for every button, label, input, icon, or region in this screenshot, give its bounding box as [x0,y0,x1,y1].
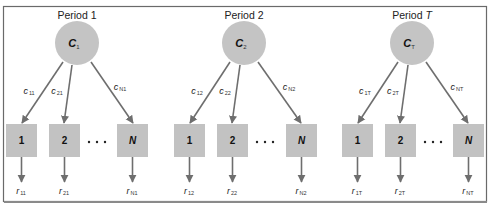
period-T-output-1-label: r1T [352,186,363,196]
period-T-ellipsis [424,141,442,143]
period-T-edge-1-label: c1T [359,86,372,96]
period-T-leaf-1-label: 1 [355,135,361,146]
period-T-title: Period T [392,9,433,21]
period-1-leaf-1-label: 1 [19,135,25,146]
period-1-leaf-2-label: 2 [62,135,68,146]
period-2-output-N-label: rN2 [295,186,306,196]
period-2-edge-N [258,62,301,123]
period-T-leaf-2-label: 2 [398,135,404,146]
period-2-edge-2 [232,65,240,123]
period-2-leaf-2-label: 2 [230,135,236,146]
multi-period-tree-diagram: Period 1 C1 c11 c21 cN1 1 2 N r11 r21 rN… [0,0,489,208]
period-2-output-2-label: r22 [227,186,237,196]
period-2-output-1-label: r12 [184,186,194,196]
period-1-title: Period 1 [57,9,96,21]
period-1-edge-2 [64,65,72,123]
period-2-edge-N-label: cN2 [283,82,296,92]
period-2-edge-1-label: c12 [191,86,203,96]
period-1-edge-2-label: c21 [51,86,63,96]
period-1-edge-N [91,62,133,123]
period-1-edge-N-label: cN1 [114,82,127,92]
period-2-title: Period 2 [224,9,263,21]
period-T-edge-N [426,62,468,123]
period-1-output-2-label: r21 [59,186,69,196]
period-T-group: Period T CT c1T c2T cNT 1 2 N r1T r2T rN… [342,9,484,196]
period-1-edge-1-label: c11 [23,86,34,96]
period-1-output-1-label: r11 [16,186,26,196]
period-2-leaf-1-label: 1 [187,135,193,146]
period-T-edge-N-label: cNT [451,82,464,92]
period-1-output-N-label: rN1 [126,186,137,196]
period-T-output-2-label: r2T [395,186,406,196]
period-1-group: Period 1 C1 c11 c21 cN1 1 2 N r11 r21 rN… [6,9,148,196]
period-2-group: Period 2 C2 c12 c22 cN2 1 2 N r12 r22 rN… [174,9,317,196]
period-1-root-node [55,21,99,65]
period-T-leaf-N-label: N [465,135,473,146]
period-1-ellipsis [88,141,106,143]
period-2-leaf-N-label: N [298,135,306,146]
period-1-leaf-N-label: N [129,135,137,146]
period-T-output-N-label: rNT [462,186,474,196]
period-T-root-node [390,21,434,65]
period-T-edge-2-label: c2T [387,86,400,96]
period-2-root-node [222,21,266,65]
period-T-edge-2 [400,65,408,123]
period-2-edge-2-label: c22 [219,86,231,96]
period-2-ellipsis [256,141,274,143]
